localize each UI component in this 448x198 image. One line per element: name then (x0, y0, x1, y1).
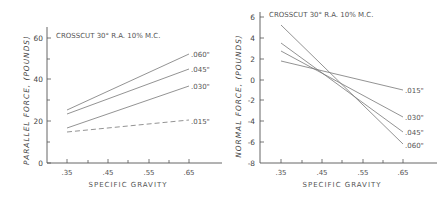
x-axis-label: SPECIFIC GRAVITY (89, 181, 168, 189)
chart-title: CROSSCUT 30° R.A. 10% M.C. (269, 11, 373, 19)
y-tick-label: -8 (248, 159, 256, 168)
series-060 (67, 54, 189, 110)
y-tick-label: 2 (250, 55, 255, 64)
x-tick-label: .35 (275, 169, 286, 177)
x-tick-label: .45 (316, 169, 327, 177)
y-tick-label: 40 (34, 75, 44, 84)
x-axis-label: SPECIFIC GRAVITY (303, 181, 382, 189)
chart-title: CROSSCUT 30° R.A. 10% M.C. (56, 32, 160, 40)
x-tick-label: .45 (102, 169, 113, 177)
series-045 (281, 43, 403, 132)
series-label-060: .060" (405, 142, 424, 150)
y-tick-label: 4 (250, 34, 255, 43)
x-tick-label: .65 (183, 169, 194, 177)
y-tick-label: -4 (248, 117, 256, 126)
y-axis-label: PARALLEL FORCE, (POUNDS) (22, 35, 31, 165)
x-tick-label: .55 (143, 169, 154, 177)
series-060 (281, 25, 403, 144)
series-label-030: .030" (405, 114, 424, 122)
y-tick-label: 60 (34, 34, 44, 43)
y-axis-label: NORMAL FORCE, (POUNDS) (234, 34, 243, 157)
figure: 0 20 40 60 .35 .45 .55 .65 SPECIFIC GRAV… (0, 0, 448, 198)
y-tick-label: -6 (248, 138, 256, 147)
x-tick-label: .55 (357, 169, 368, 177)
x-tick-label: .65 (397, 169, 408, 177)
y-tick-label: 0 (38, 159, 43, 168)
y-tick-label: 20 (34, 117, 44, 126)
series-label-015: .015" (191, 118, 210, 126)
series-label-045: .045" (191, 66, 210, 74)
series-label-030: .030" (191, 83, 210, 91)
y-tick-label: 0 (250, 76, 255, 85)
series-label-060: .060" (191, 51, 210, 59)
y-tick-label: -2 (248, 96, 255, 105)
normal-force-chart: 6 4 2 0 -2 -4 -6 -8 .35 .45 .55 .65 SPEC… (234, 11, 437, 189)
series-label-045: .045" (405, 129, 424, 137)
series-015 (281, 61, 403, 90)
y-tick-label: 6 (250, 13, 255, 22)
series-label-015: .015" (405, 87, 424, 95)
parallel-force-chart: 0 20 40 60 .35 .45 .55 .65 SPECIFIC GRAV… (22, 27, 222, 189)
x-tick-label: .35 (61, 169, 72, 177)
